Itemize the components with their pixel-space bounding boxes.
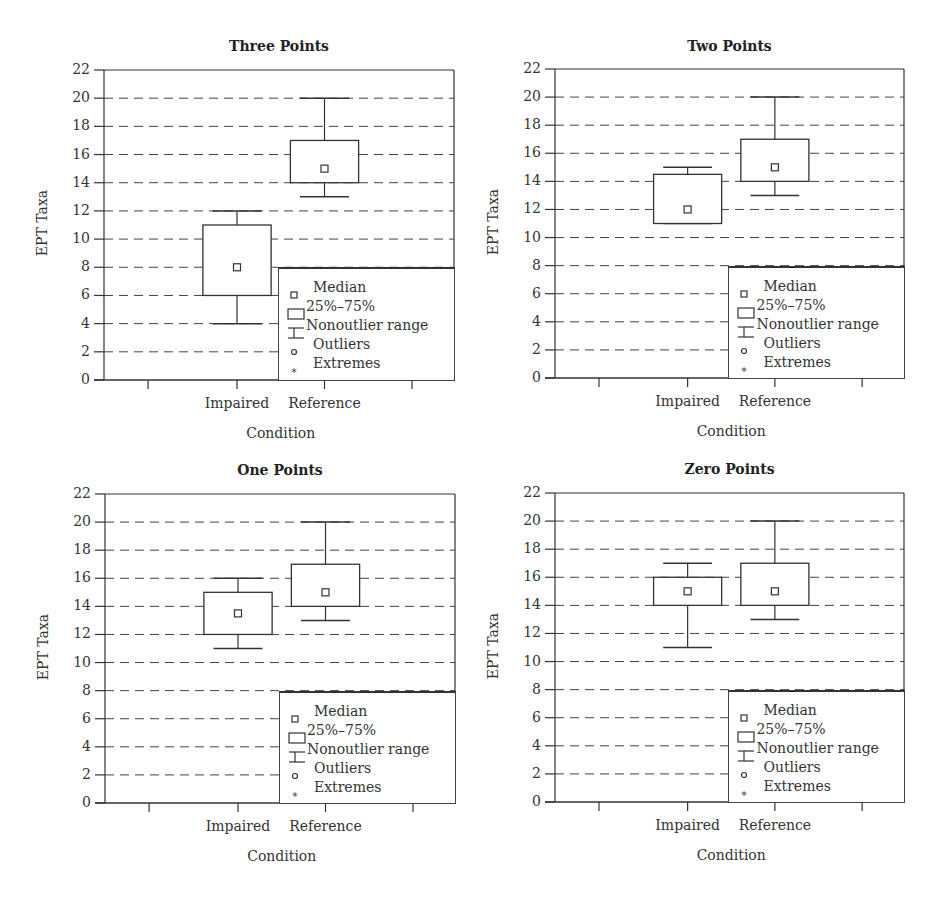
legend-label: Outliers	[763, 759, 820, 775]
legend-item-median-square: Median	[737, 702, 816, 718]
chart-panel-zero-points: Zero Points0246810121416182022Median25%–…	[0, 0, 948, 900]
y-tick-label: 6	[513, 709, 541, 725]
legend-label: 25%–75%	[756, 721, 825, 737]
y-tick-label: 0	[513, 793, 541, 809]
legend-item-circle: Outliers	[737, 759, 820, 775]
y-axis-label: EPT Taxa	[485, 606, 501, 686]
iqr-box	[741, 563, 809, 605]
median-marker	[684, 588, 691, 595]
svg-text:*: *	[742, 789, 748, 802]
y-tick-label: 22	[513, 484, 541, 500]
legend: Median25%–75%Nonoutlier rangeOutliers*Ex…	[728, 690, 905, 803]
legend-item-whisker: Nonoutlier range	[737, 740, 878, 756]
x-category-label-impaired: Impaired	[643, 817, 733, 833]
y-tick-label: 20	[513, 512, 541, 528]
legend-label: Median	[763, 702, 816, 718]
median-marker	[771, 588, 778, 595]
y-tick-label: 8	[513, 681, 541, 697]
legend-item-asterisk: *Extremes	[737, 778, 830, 794]
legend-item-box-rect: 25%–75%	[737, 721, 825, 737]
asterisk-icon: *	[737, 787, 751, 801]
y-tick-label: 18	[513, 540, 541, 556]
legend-label: Nonoutlier range	[756, 740, 878, 756]
x-axis-label: Condition	[671, 847, 791, 863]
y-tick-label: 2	[513, 765, 541, 781]
y-tick-label: 16	[513, 568, 541, 584]
y-tick-label: 10	[513, 653, 541, 669]
legend-label: Extremes	[763, 778, 830, 794]
y-tick-label: 14	[513, 596, 541, 612]
x-category-label-reference: Reference	[730, 817, 820, 833]
y-tick-label: 12	[513, 624, 541, 640]
y-tick-label: 4	[513, 737, 541, 753]
